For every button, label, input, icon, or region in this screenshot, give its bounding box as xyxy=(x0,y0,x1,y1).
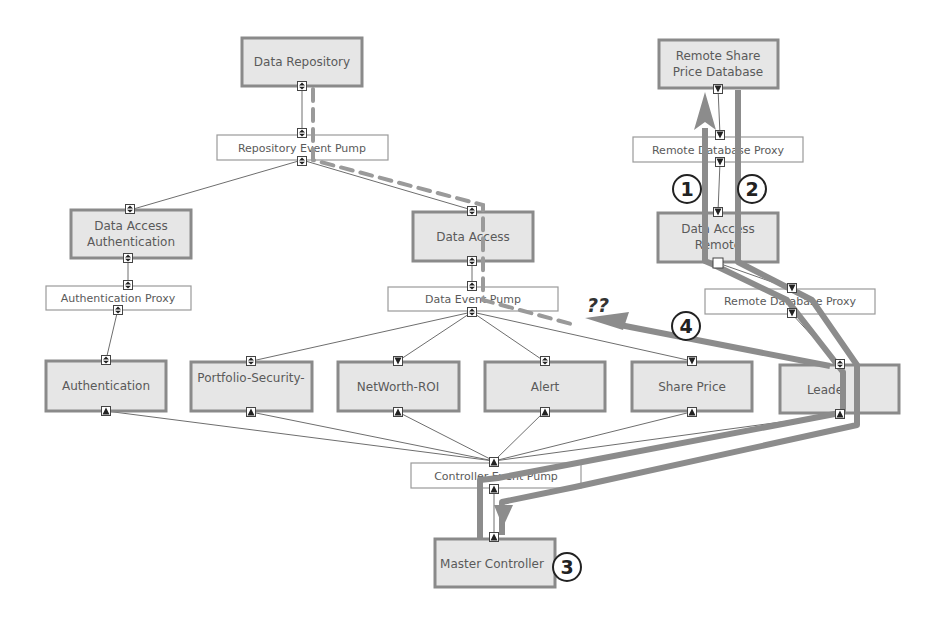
step-2-badge: 2 xyxy=(738,175,766,203)
node-alert[interactable]: Alert xyxy=(485,362,605,411)
node-label: Share Price xyxy=(658,380,726,394)
step-3-badge: 3 xyxy=(553,553,581,581)
step-4-badge: 4 xyxy=(672,312,700,340)
node-data-access-authentication[interactable]: Data Access Authentication xyxy=(71,210,191,258)
node-data-access[interactable]: Data Access xyxy=(413,212,533,261)
svg-text:3: 3 xyxy=(560,556,573,578)
node-portfolio-security-transaction[interactable]: Portfolio-Security- xyxy=(191,362,312,411)
node-label: Data Access xyxy=(94,219,168,233)
node-data-access-remote[interactable]: Data Access Remote xyxy=(658,213,778,262)
node-label: Remote Database Proxy xyxy=(652,144,785,157)
node-label: Price Database xyxy=(673,65,763,79)
node-label: Remote Share xyxy=(676,49,761,63)
node-label: Master Controller xyxy=(440,557,544,571)
node-label: Data Event Pump xyxy=(425,293,521,306)
node-label: Portfolio-Security- xyxy=(197,371,304,385)
node-label: Data Access xyxy=(681,222,755,236)
node-label: Repository Event Pump xyxy=(238,142,366,155)
architecture-diagram: Data Repository Repository Event Pump Da… xyxy=(0,0,942,617)
node-label: Authentication xyxy=(87,235,175,249)
node-label: Authentication xyxy=(62,379,150,393)
arrow-down-icon xyxy=(494,505,513,527)
node-label: Data Repository xyxy=(254,55,350,69)
node-data-repository[interactable]: Data Repository xyxy=(242,38,362,86)
node-label: Alert xyxy=(531,380,560,394)
node-label: Authentication Proxy xyxy=(61,292,176,305)
node-remote-share-price-database[interactable]: Remote Share Price Database xyxy=(659,40,778,88)
node-master-controller[interactable]: Master Controller xyxy=(435,539,555,587)
svg-text:1: 1 xyxy=(680,178,693,200)
svg-text:2: 2 xyxy=(745,178,758,200)
step-1-badge: 1 xyxy=(673,175,701,203)
unknown-route-label: ?? xyxy=(587,294,609,316)
node-share-price[interactable]: Share Price xyxy=(632,362,752,411)
svg-text:4: 4 xyxy=(679,315,692,337)
node-label: Leade xyxy=(807,383,843,397)
node-label: Remote xyxy=(695,238,741,252)
node-networth-roi[interactable]: NetWorth-ROI xyxy=(338,362,459,411)
node-authentication[interactable]: Authentication xyxy=(46,361,166,411)
node-label: Data Access xyxy=(436,230,510,244)
arrow-up-icon xyxy=(694,92,716,130)
node-label: NetWorth-ROI xyxy=(357,380,439,394)
